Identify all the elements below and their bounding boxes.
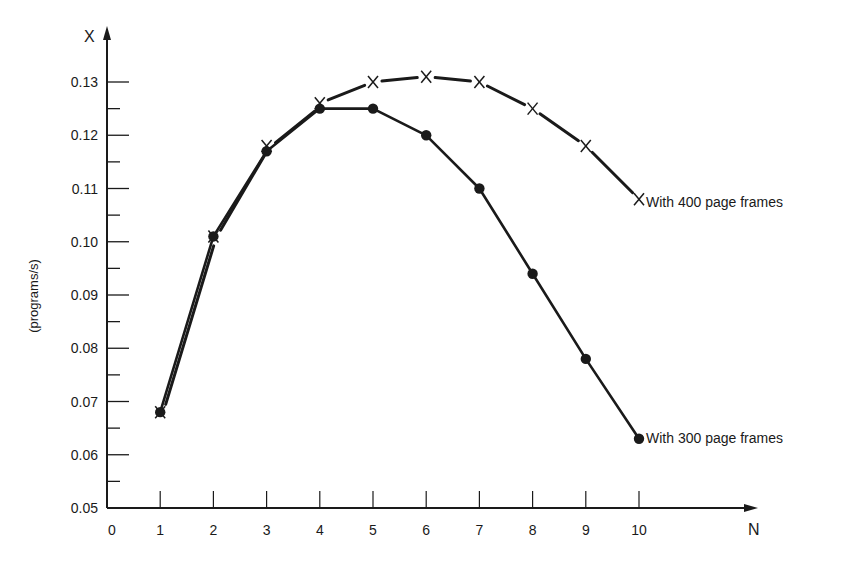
circle-marker-icon — [261, 146, 271, 156]
series-300-frames — [155, 103, 644, 444]
circle-marker-icon — [474, 183, 484, 193]
x-marker-icon — [474, 76, 484, 88]
x-tick-label: 1 — [156, 522, 164, 538]
x-axis-arrow-icon — [744, 504, 758, 512]
x-tick-label: 3 — [263, 522, 271, 538]
y-axis-unit-label: (programs/s) — [26, 259, 41, 333]
y-tick-label: 0.05 — [71, 500, 98, 516]
circle-marker-icon — [155, 407, 165, 417]
series-layer — [155, 71, 644, 444]
circle-marker-icon — [315, 103, 325, 113]
y-tick-label: 0.13 — [71, 74, 98, 90]
line-segment — [592, 152, 632, 193]
y-tick-label: 0.11 — [72, 181, 98, 197]
x-marker-icon — [368, 76, 378, 88]
x-tick-label: 6 — [422, 522, 430, 538]
x-tick-label: 9 — [582, 522, 590, 538]
x-tick-label: 0 — [108, 522, 116, 538]
y-tick-label: 0.07 — [71, 394, 98, 410]
line-segment — [382, 78, 417, 82]
line-segment — [540, 114, 578, 141]
circle-marker-icon — [581, 354, 591, 364]
x-tick-label: 5 — [369, 522, 377, 538]
legend-label-300-frames: With 300 page frames — [646, 430, 783, 446]
line-segment — [166, 246, 214, 404]
x-tick-label: 7 — [476, 522, 484, 538]
series-line — [160, 109, 639, 439]
y-axis-title: X — [84, 28, 95, 45]
x-axis-title: N — [748, 521, 760, 538]
line-segment — [487, 86, 524, 105]
y-axis-arrow-icon — [103, 26, 111, 40]
circle-marker-icon — [368, 103, 378, 113]
circle-marker-icon — [421, 130, 431, 140]
y-tick-label: 0.09 — [71, 287, 98, 303]
y-tick-label: 0.12 — [71, 127, 98, 143]
circle-marker-icon — [208, 231, 218, 241]
circle-marker-icon — [527, 269, 537, 279]
x-marker-icon — [421, 71, 431, 83]
y-tick-label: 0.10 — [71, 234, 98, 250]
x-marker-icon — [634, 193, 644, 205]
x-tick-label: 10 — [631, 522, 647, 538]
x-marker-icon — [581, 140, 591, 152]
line-segment — [328, 85, 364, 100]
x-marker-icon — [528, 103, 538, 115]
y-tick-label: 0.08 — [71, 340, 98, 356]
throughput-chart: 0.050.060.070.080.090.100.110.120.130123… — [0, 0, 847, 567]
circle-marker-icon — [634, 434, 644, 444]
y-tick-label: 0.06 — [71, 447, 98, 463]
line-segment — [435, 78, 470, 82]
legend-label-400-frames: With 400 page frames — [646, 194, 783, 210]
ticks: 0.050.060.070.080.090.100.110.120.130123… — [71, 74, 647, 538]
x-tick-label: 2 — [210, 522, 218, 538]
x-tick-label: 8 — [529, 522, 537, 538]
x-tick-label: 4 — [316, 522, 324, 538]
